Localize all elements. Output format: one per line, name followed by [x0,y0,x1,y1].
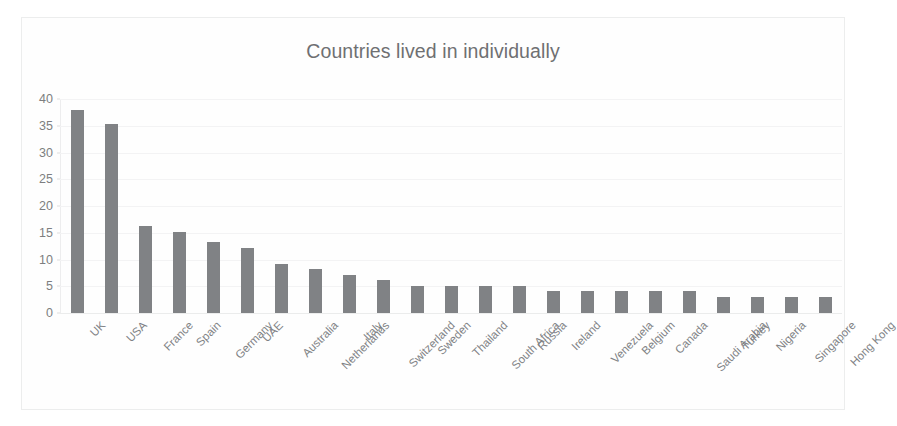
y-axis-tick-label: 30 [19,146,53,160]
bar[interactable] [241,248,254,313]
bar[interactable] [275,264,288,313]
bar[interactable] [615,291,628,313]
x-axis-category-label: Australia [300,319,340,359]
y-axis-tick-label: 40 [19,92,53,106]
x-axis-category-label: Spain [194,319,223,348]
gridline [60,313,842,314]
x-axis-category-label: Thailand [470,319,510,359]
bar-series [60,99,842,313]
bar[interactable] [105,124,118,313]
bar[interactable] [377,280,390,313]
x-axis-category-label: Nigeria [774,319,808,353]
bar[interactable] [547,291,560,313]
bar[interactable] [785,297,798,313]
bar[interactable] [411,286,424,313]
bar[interactable] [71,110,84,313]
bar[interactable] [445,286,458,313]
bar[interactable] [819,297,832,313]
y-axis-tick-label: 10 [19,253,53,267]
chart-title: Countries lived in individually [22,40,844,63]
bar[interactable] [717,297,730,313]
bar[interactable] [207,242,220,313]
x-axis-category-label: UK [88,319,108,339]
y-axis-tick-label: 5 [19,279,53,293]
bar[interactable] [343,275,356,313]
bar[interactable] [751,297,764,313]
bar[interactable] [649,291,662,313]
bar[interactable] [683,291,696,313]
x-axis-category-label: USA [124,319,149,344]
bar[interactable] [173,232,186,313]
bar[interactable] [513,286,526,313]
bar[interactable] [139,226,152,313]
chart-container: Countries lived in individually 05101520… [21,17,845,410]
x-axis-category-label: Canada [673,319,710,356]
bar[interactable] [479,286,492,313]
y-axis-tick-label: 25 [19,172,53,186]
bar[interactable] [581,291,594,313]
y-axis-tick-label: 0 [19,306,53,320]
bar[interactable] [309,269,322,313]
y-axis-tick-label: 20 [19,199,53,213]
y-axis-tick-label: 35 [19,119,53,133]
x-axis-category-labels: UKUSAFranceSpainGermanyUAEAustraliaNethe… [60,315,842,411]
y-axis-tick-label: 15 [19,226,53,240]
plot-area: 0510152025303540 [60,99,842,313]
x-axis-category-label: France [161,319,195,353]
x-axis-category-label: Ireland [569,319,602,352]
